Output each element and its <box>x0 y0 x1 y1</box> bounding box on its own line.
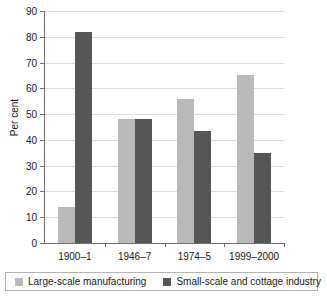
x-tick-mark <box>284 243 285 247</box>
legend-item-small-scale-cottage-industry: Small-scale and cottage industry <box>163 276 321 287</box>
x-tick-label: 1974–5 <box>178 251 211 262</box>
bar <box>194 131 211 243</box>
x-tick-mark <box>105 243 106 247</box>
chart-legend: Large-scale manufacturing Small-scale an… <box>5 272 318 291</box>
y-tick-label: 70 <box>26 57 37 68</box>
y-tick-label: 50 <box>26 109 37 120</box>
bar-chart: Per cent 0102030405060708090 1900–11946–… <box>0 0 327 297</box>
bar <box>177 99 194 243</box>
bar <box>254 153 271 243</box>
bar-group <box>177 11 211 243</box>
y-axis-title: Per cent <box>9 73 20 163</box>
y-tick-label: 90 <box>26 6 37 17</box>
y-tick-label: 40 <box>26 134 37 145</box>
x-tick-label: 1900–1 <box>58 251 91 262</box>
legend-dark-swatch-icon <box>163 278 171 286</box>
y-tick-label: 60 <box>26 83 37 94</box>
bar <box>237 75 254 243</box>
plot-area: 0102030405060708090 1900–11946–71974–519… <box>44 11 284 244</box>
bar <box>75 32 92 243</box>
y-tick-label: 30 <box>26 160 37 171</box>
bar-group <box>118 11 152 243</box>
y-tick-mark <box>40 11 44 12</box>
bar <box>58 207 75 243</box>
y-tick-mark <box>40 166 44 167</box>
y-tick-mark <box>40 37 44 38</box>
bar-group <box>58 11 92 243</box>
legend-label-small-scale-cottage-industry: Small-scale and cottage industry <box>176 276 321 287</box>
bar-groups <box>45 11 284 243</box>
y-tick-label: 20 <box>26 186 37 197</box>
y-tick-mark <box>40 140 44 141</box>
x-tick-label: 1999–2000 <box>229 251 279 262</box>
y-tick-mark <box>40 243 44 244</box>
plot-wrapper: Per cent 0102030405060708090 1900–11946–… <box>0 0 327 268</box>
x-tick-mark <box>224 243 225 247</box>
y-tick-mark <box>40 63 44 64</box>
x-tick-label: 1946–7 <box>118 251 151 262</box>
y-tick-label: 10 <box>26 212 37 223</box>
y-tick-mark <box>40 114 44 115</box>
bar-group <box>237 11 271 243</box>
y-tick-mark <box>40 191 44 192</box>
y-tick-mark <box>40 217 44 218</box>
y-tick-label: 0 <box>31 238 37 249</box>
legend-item-large-scale-manufacturing: Large-scale manufacturing <box>15 276 146 287</box>
legend-label-large-scale-manufacturing: Large-scale manufacturing <box>28 276 146 287</box>
legend-light-swatch-icon <box>15 278 23 286</box>
bar <box>118 119 135 243</box>
y-tick-mark <box>40 88 44 89</box>
bar <box>135 119 152 243</box>
y-tick-label: 80 <box>26 31 37 42</box>
x-tick-mark <box>165 243 166 247</box>
